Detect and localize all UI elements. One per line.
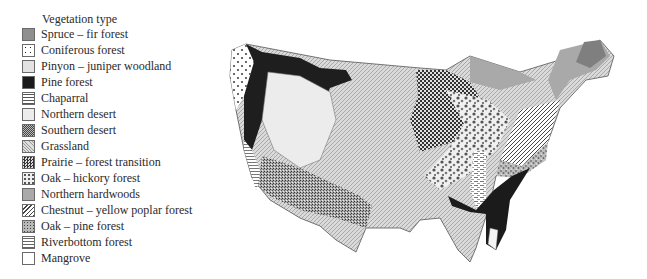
legend-item-pine: Pine forest — [22, 74, 93, 90]
legend-item-oak-pine: Oak – pine forest — [22, 218, 124, 234]
swatch-riverbottom-icon — [22, 236, 35, 249]
legend-item-southern-desert: Southern desert — [22, 122, 116, 138]
swatch-grassland-icon — [22, 140, 35, 153]
swatch-oak-pine-icon — [22, 220, 35, 233]
swatch-pine-icon — [22, 76, 35, 89]
legend-item-oak-hickory: Oak – hickory forest — [22, 170, 140, 186]
swatch-northern-hardwoods-icon — [22, 188, 35, 201]
legend-item-riverbottom: Riverbottom forest — [22, 234, 132, 250]
legend-title: Vegetation type — [42, 12, 117, 26]
swatch-oak-hickory-icon — [22, 172, 35, 185]
legend-item-mangrove: Mangrove — [22, 250, 90, 266]
swatch-chaparral-icon — [22, 92, 35, 105]
legend-item-northern-desert: Northern desert — [22, 106, 116, 122]
swatch-mangrove-icon — [22, 252, 35, 265]
legend-item-coniferous: Coniferous forest — [22, 42, 125, 58]
swatch-southern-desert-icon — [22, 124, 35, 137]
legend-item-northern-hardwoods: Northern hardwoods — [22, 186, 140, 202]
legend-item-spruce-fir: Spruce – fir forest — [22, 26, 128, 42]
swatch-chestnut-poplar-icon — [22, 204, 35, 217]
swatch-prairie-forest-icon — [22, 156, 35, 169]
swatch-coniferous-icon — [22, 44, 35, 57]
legend-item-chaparral: Chaparral — [22, 90, 88, 106]
legend-item-chestnut-poplar: Chestnut – yellow poplar forest — [22, 202, 192, 218]
region-mangrove — [488, 228, 498, 250]
legend-item-pinyon-juniper: Pinyon – juniper woodland — [22, 58, 171, 74]
legend-item-grassland: Grassland — [22, 138, 89, 154]
swatch-spruce-fir-icon — [22, 28, 35, 41]
swatch-pinyon-juniper-icon — [22, 60, 35, 73]
legend-item-prairie-forest: Prairie – forest transition — [22, 154, 161, 170]
swatch-northern-desert-icon — [22, 108, 35, 121]
